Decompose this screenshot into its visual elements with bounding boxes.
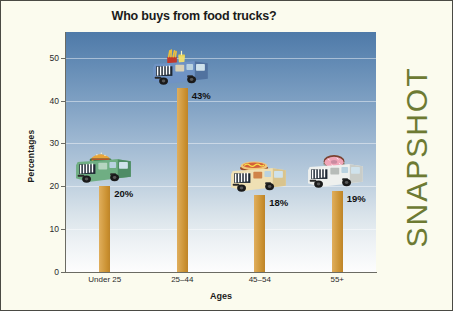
x-tick-label: 45–54 <box>249 275 271 284</box>
y-tick-mark <box>61 229 65 230</box>
food-truck-icon <box>74 145 136 191</box>
snapshot-label: SNAPSHOT <box>400 66 434 247</box>
x-axis-line <box>65 272 377 273</box>
y-tick-label: 30 <box>7 138 59 148</box>
y-tick-mark <box>61 186 65 187</box>
food-truck-icon <box>229 154 291 200</box>
y-tick-label: 50 <box>7 53 59 63</box>
food-truck-icon <box>306 150 368 196</box>
y-axis-tick-labels: 01020304050 <box>1 1 59 311</box>
x-tick-label: Under 25 <box>88 275 121 284</box>
y-tick-mark <box>61 101 65 102</box>
y-tick-mark <box>61 272 65 273</box>
y-tick-label: 40 <box>7 96 59 106</box>
y-tick-label: 0 <box>7 267 59 277</box>
y-tick-label: 20 <box>7 181 59 191</box>
bar <box>332 191 343 272</box>
y-tick-mark <box>61 143 65 144</box>
snapshot-side-banner: SNAPSHOT <box>384 1 450 311</box>
gridline <box>66 101 376 102</box>
y-tick-mark <box>61 58 65 59</box>
x-tick-label: 25–44 <box>171 275 193 284</box>
gridline <box>66 58 376 59</box>
food-truck-icon <box>151 47 213 93</box>
plot-area: 20%43%18%19% <box>66 32 376 272</box>
snapshot-infographic-card: Who buys from food trucks? SNAPSHOT Perc… <box>0 0 453 311</box>
bar <box>99 186 110 272</box>
x-tick-label: 55+ <box>330 275 344 284</box>
x-axis-title: Ages <box>66 291 376 301</box>
gridline <box>66 143 376 144</box>
y-tick-label: 10 <box>7 224 59 234</box>
bar <box>254 195 265 272</box>
bar <box>177 88 188 272</box>
gridline <box>66 229 376 230</box>
